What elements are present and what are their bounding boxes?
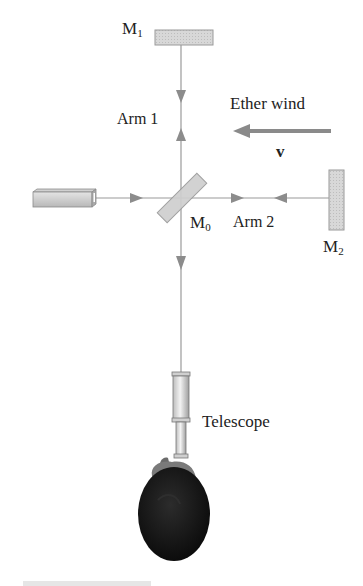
caption-placeholder-strip	[23, 581, 151, 586]
interferometer-diagram	[0, 0, 363, 586]
label-m1: M1	[122, 20, 143, 39]
arrowhead-down-telescope	[176, 256, 186, 270]
label-m1-sub: 1	[137, 27, 143, 39]
label-velocity: v	[276, 143, 285, 160]
label-m1-main: M	[122, 19, 137, 38]
arrowhead-right-source	[130, 193, 143, 203]
label-m2-sub: 2	[338, 245, 344, 257]
label-m2: M2	[323, 238, 344, 257]
label-telescope: Telescope	[202, 413, 270, 430]
label-arm2: Arm 2	[233, 214, 274, 230]
observer-head	[138, 458, 210, 561]
label-arm1: Arm 1	[117, 111, 158, 127]
label-m2-main: M	[323, 237, 338, 256]
arrowhead-up-arm1	[176, 128, 186, 141]
light-source	[33, 189, 96, 207]
mirror-m2	[329, 170, 344, 230]
label-m0-sub: 0	[205, 221, 211, 233]
ether-wind-arrow-head	[233, 124, 250, 138]
arrowhead-down-arm1	[176, 90, 186, 103]
arrowhead-left-arm2	[274, 193, 287, 203]
label-m0-main: M	[190, 213, 205, 232]
mirror-m1	[155, 30, 213, 45]
label-m0: M0	[190, 214, 211, 233]
arrowhead-right-arm2	[231, 193, 244, 203]
label-ether-wind: Ether wind	[230, 95, 305, 112]
telescope	[172, 372, 190, 458]
